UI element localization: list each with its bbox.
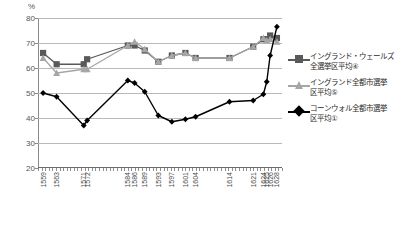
x-axis-tick-label: 1593 [155, 172, 162, 188]
y-axis-tick-label: 20 [26, 164, 35, 173]
x-axis-tick-mark [138, 168, 139, 171]
x-axis-tick-mark [103, 168, 104, 171]
x-axis-tick-mark [67, 168, 68, 171]
x-axis-ticks [38, 168, 282, 171]
x-axis-tick-mark [164, 168, 165, 171]
x-axis-tick-mark [210, 168, 211, 171]
series-1 [40, 35, 281, 77]
legend-swatch-icon [288, 53, 310, 66]
y-axis-tick-label: 30 [26, 139, 35, 148]
legend-label: イングランド全都市選挙区平均⑤ [310, 78, 387, 97]
x-axis-tick-mark [38, 168, 39, 171]
x-axis-tick-mark [250, 168, 251, 171]
x-axis-tick-mark [199, 168, 200, 171]
x-axis-tick-mark [88, 168, 89, 171]
x-axis-tick-mark [253, 168, 254, 171]
x-axis-tick-mark [243, 168, 244, 171]
x-axis-tick-mark [52, 168, 53, 171]
data-point-marker [131, 38, 138, 45]
x-axis-tick-mark [221, 168, 222, 171]
legend-label: コーンウォル全都市選挙区平均① [310, 104, 387, 123]
x-axis-tick-label: 1601 [182, 172, 189, 188]
x-axis-tick-mark [167, 168, 168, 171]
x-axis-tick-label: 1614 [226, 172, 233, 188]
x-axis-tick-label: 1586 [131, 172, 138, 188]
legend-swatch-icon [288, 105, 310, 118]
x-axis-tick-mark [135, 168, 136, 171]
x-axis-tick-mark [278, 168, 279, 171]
x-axis-tick-label: 1563 [53, 172, 60, 188]
x-axis-tick-mark [124, 168, 125, 171]
x-axis-tick-mark [45, 168, 46, 171]
x-axis-tick-mark [203, 168, 204, 171]
x-axis-tick-mark [189, 168, 190, 171]
x-axis-tick-mark [146, 168, 147, 171]
data-point-marker [264, 79, 270, 85]
legend-label: イングランド・ウェールズ全選挙区平均④ [310, 52, 394, 71]
x-axis-tick-mark [153, 168, 154, 171]
x-axis-tick-mark [156, 168, 157, 171]
x-axis-tick-mark [182, 168, 183, 171]
x-axis-tick-mark [85, 168, 86, 171]
data-point-marker [274, 24, 280, 30]
x-axis-tick-mark [185, 168, 186, 171]
x-axis-tick-mark [56, 168, 57, 171]
legend-item-2[interactable]: コーンウォル全都市選挙区平均① [288, 104, 419, 123]
y-axis-tick-label: 70 [26, 39, 35, 48]
x-axis-tick-mark [106, 168, 107, 171]
x-axis-tick-mark [117, 168, 118, 171]
x-axis-tick-mark [275, 168, 276, 171]
x-axis-tick-label: 1597 [168, 172, 175, 188]
x-axis-tick-mark [207, 168, 208, 171]
x-axis-tick-mark [92, 168, 93, 171]
y-axis-unit-label: % [28, 2, 35, 11]
x-axis-tick-mark [81, 168, 82, 171]
x-axis-tick-mark [70, 168, 71, 171]
x-axis-tick-mark [121, 168, 122, 171]
x-axis-tick-mark [113, 168, 114, 171]
x-axis-tick-mark [110, 168, 111, 171]
y-axis-tick-label: 80 [26, 14, 35, 23]
series-line [43, 38, 277, 73]
x-axis-tick-mark [77, 168, 78, 171]
data-point-marker [183, 116, 189, 122]
x-axis-tick-label: 1621 [250, 172, 257, 188]
x-axis-tick-label: 1572 [84, 172, 91, 188]
x-axis-tick-mark [225, 168, 226, 171]
x-axis-tick-mark [63, 168, 64, 171]
x-axis-tick-mark [271, 168, 272, 171]
x-axis-tick-mark [99, 168, 100, 171]
data-point-marker [155, 113, 161, 119]
x-axis-tick-mark [268, 168, 269, 171]
x-axis-tick-mark [217, 168, 218, 171]
x-axis-tick-mark [239, 168, 240, 171]
x-axis-tick-mark [235, 168, 236, 171]
series-layer [38, 18, 282, 168]
x-axis-tick-mark [171, 168, 172, 171]
x-axis-tick-mark [142, 168, 143, 171]
chart-legend: イングランド・ウェールズ全選挙区平均④イングランド全都市選挙区平均⑤コーンウォル… [288, 52, 419, 130]
legend-item-0[interactable]: イングランド・ウェールズ全選挙区平均④ [288, 52, 419, 71]
x-axis-tick-mark [95, 168, 96, 171]
x-axis-tick-mark [246, 168, 247, 171]
legend-item-1[interactable]: イングランド全都市選挙区平均⑤ [288, 78, 419, 97]
x-axis-tick-mark [131, 168, 132, 171]
data-point-marker [267, 53, 273, 59]
data-point-marker [54, 61, 60, 67]
x-axis-tick-mark [260, 168, 261, 171]
x-axis-tick-mark [192, 168, 193, 171]
series-2 [40, 24, 280, 129]
x-axis-tick-mark [60, 168, 61, 171]
x-axis-labels: 1559156315711572158415861589159315971601… [38, 172, 282, 224]
data-point-marker [40, 90, 46, 96]
x-axis-tick-mark [178, 168, 179, 171]
x-axis-tick-mark [174, 168, 175, 171]
x-axis-tick-label: 1589 [141, 172, 148, 188]
y-axis-tick-label: 60 [26, 64, 35, 73]
x-axis-tick-mark [128, 168, 129, 171]
x-axis-tick-mark [232, 168, 233, 171]
data-point-marker [169, 119, 175, 125]
x-axis-tick-mark [49, 168, 50, 171]
x-axis-tick-mark [264, 168, 265, 171]
series-line [43, 27, 277, 126]
